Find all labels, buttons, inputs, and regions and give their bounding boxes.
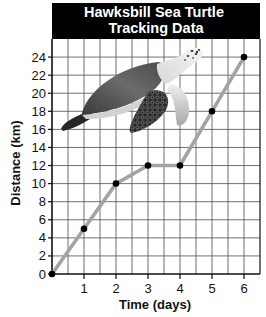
y-tick-label: 20 xyxy=(32,86,46,101)
line-chart: Hawksbill Sea Turtle Tracking Data xyxy=(0,0,266,317)
data-point-marker xyxy=(49,271,56,278)
chart-title-line-1: Hawksbill Sea Turtle xyxy=(84,4,224,20)
x-tick-label: 1 xyxy=(80,281,87,296)
y-tick-label: 0 xyxy=(39,267,46,282)
data-point-marker xyxy=(177,162,184,169)
y-tick-label: 4 xyxy=(39,230,46,245)
turtle-eye xyxy=(196,51,198,53)
data-point-marker xyxy=(81,226,88,233)
data-point-marker xyxy=(209,108,216,115)
x-axis-title: Time (days) xyxy=(119,297,191,312)
y-tick-label: 6 xyxy=(39,212,46,227)
data-point-marker xyxy=(113,180,120,187)
x-tick-label: 5 xyxy=(208,281,215,296)
y-tick-label: 12 xyxy=(32,158,46,173)
y-tick-label: 10 xyxy=(32,176,46,191)
y-tick-label: 14 xyxy=(32,140,46,155)
y-tick-label: 22 xyxy=(32,68,46,83)
y-tick-label: 2 xyxy=(39,248,46,263)
x-tick-label: 2 xyxy=(112,281,119,296)
turtle-front-flipper-light xyxy=(167,84,189,125)
x-tick-label: 4 xyxy=(176,281,183,296)
y-tick-label: 18 xyxy=(32,104,46,119)
y-tick-label: 24 xyxy=(32,50,46,65)
y-tick-label: 16 xyxy=(32,122,46,137)
x-tick-label: 6 xyxy=(240,281,247,296)
y-axis-title: Distance (km) xyxy=(8,120,23,205)
data-point-marker xyxy=(241,54,248,61)
y-tick-label: 8 xyxy=(39,194,46,209)
data-point-marker xyxy=(145,162,152,169)
chart-figure: Hawksbill Sea Turtle Tracking Data xyxy=(0,0,266,317)
chart-title-line-2: Tracking Data xyxy=(108,20,204,36)
x-tick-label: 3 xyxy=(144,281,151,296)
